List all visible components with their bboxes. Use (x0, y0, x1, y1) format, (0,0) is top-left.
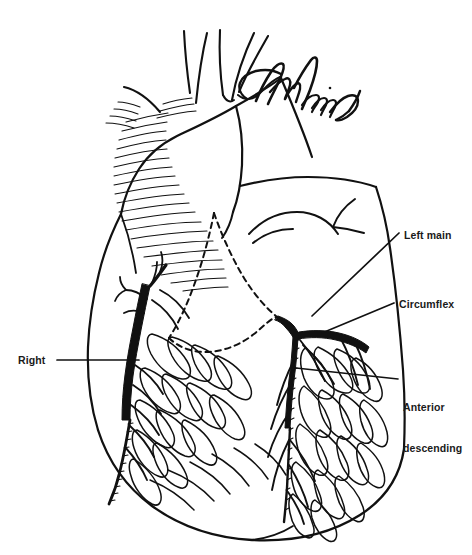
label-left-main: Left main (404, 229, 452, 243)
label-right: Right (18, 354, 45, 368)
label-anterior-descending: Anterior descending (403, 374, 462, 469)
label-anterior-descending-line1: Anterior (403, 401, 462, 415)
label-circumflex: Circumflex (399, 298, 454, 312)
label-anterior-descending-line2: descending (403, 442, 462, 456)
heart-anatomy-illustration (0, 0, 472, 555)
